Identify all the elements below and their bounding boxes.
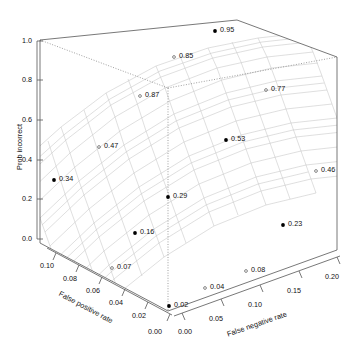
x-axis [47, 248, 172, 321]
x-tick-0-06: 0.06 [86, 287, 100, 294]
data-label-0-04: 0.04 [210, 283, 224, 290]
data-label-0-47: 0.47 [104, 142, 118, 149]
z-tick-0-0: 0.0 [22, 235, 32, 242]
x-tick-0-04: 0.04 [109, 299, 123, 306]
data-label-0-34: 0.34 [59, 175, 73, 182]
x-tick-0-02: 0.02 [132, 312, 146, 319]
x-tick-0-00: 0.00 [148, 328, 162, 335]
data-label-0-07: 0.07 [117, 263, 131, 270]
data-label-0-46: 0.46 [321, 166, 335, 173]
data-label-0-77: 0.77 [271, 85, 285, 92]
z-axis-title: Prob incorrect [16, 124, 23, 170]
data-label-0-53: 0.53 [231, 135, 245, 142]
x-tick-0-08: 0.08 [63, 275, 77, 282]
y-tick-0-15: 0.15 [287, 287, 301, 294]
data-label-0-23: 0.23 [288, 220, 302, 227]
y-tick-0-20: 0.20 [325, 273, 339, 280]
z-tick-0-8: 0.8 [22, 76, 32, 83]
data-label-0-08: 0.08 [251, 266, 265, 273]
data-label-0-16: 0.16 [140, 228, 154, 235]
surface-plot-3d: 1.0 0.8 0.6 0.4 0.2 0.0 Prob incorrect 0… [0, 0, 357, 350]
box-frame [40, 20, 337, 311]
y-tick-0-05: 0.05 [209, 315, 223, 322]
z-tick-1-0: 1.0 [22, 37, 32, 44]
data-label-0-85: 0.85 [179, 52, 193, 59]
y-tick-0-10: 0.10 [248, 301, 262, 308]
y-tick-0-00: 0.00 [178, 328, 192, 335]
data-label-0-87: 0.87 [145, 91, 159, 98]
x-tick-0-10: 0.10 [40, 262, 54, 269]
data-point-markers [52, 29, 317, 308]
data-label-0-95: 0.95 [220, 26, 234, 33]
data-label-0-02: 0.02 [174, 301, 188, 308]
z-tick-0-6: 0.6 [22, 116, 32, 123]
data-label-0-29: 0.29 [173, 192, 187, 199]
z-tick-0-2: 0.2 [22, 195, 32, 202]
